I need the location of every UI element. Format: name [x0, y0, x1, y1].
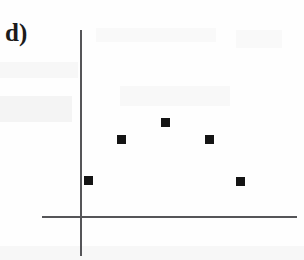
x-axis-line [42, 216, 297, 218]
scan-artifact [0, 62, 78, 78]
data-point-marker [117, 135, 126, 144]
scan-artifact [236, 30, 282, 48]
data-point-marker [205, 135, 214, 144]
scan-artifact [0, 246, 304, 260]
data-point-marker [84, 176, 93, 185]
scan-artifact [0, 96, 72, 122]
data-point-marker [236, 177, 245, 186]
scan-artifact [96, 28, 216, 42]
scan-artifact [120, 86, 230, 106]
data-point-marker [161, 118, 170, 127]
scatter-plot-figure: d) [0, 0, 304, 260]
panel-label: d) [5, 19, 27, 47]
y-axis-line [80, 30, 82, 256]
